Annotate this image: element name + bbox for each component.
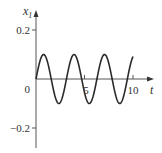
y-tick-label-neg-0.2: −0.2 — [10, 122, 30, 134]
x-tick-label-5: 5 — [83, 84, 89, 96]
y-axis-label: x1 — [22, 4, 32, 20]
x-axis-label: t — [150, 83, 154, 97]
origin-label: 0 — [25, 83, 31, 95]
y-axis-arrow-icon — [34, 10, 39, 17]
x-axis-arrow-icon — [147, 77, 154, 82]
x-tick-label-10: 10 — [128, 84, 140, 96]
chart-svg: x1 t 0.2 −0.2 0 5 10 — [0, 0, 162, 153]
y-tick-label-0.2: 0.2 — [16, 24, 30, 36]
line-chart: x1 t 0.2 −0.2 0 5 10 — [0, 0, 162, 153]
